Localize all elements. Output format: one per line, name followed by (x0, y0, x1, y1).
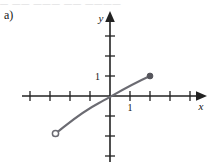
y-axis-label: y (98, 12, 104, 24)
function-curve (56, 76, 150, 133)
open-endpoint-marker (52, 130, 58, 136)
axes-group (22, 11, 207, 162)
y-axis-arrowhead (105, 11, 115, 22)
coordinate-plot: y x 1 1 (0, 0, 213, 165)
filled-endpoint-marker (147, 73, 153, 79)
x-axis-label: x (198, 100, 204, 112)
y-tick-label-one: 1 (95, 71, 100, 82)
function-curve-group (52, 73, 153, 136)
x-tick-label-one: 1 (128, 102, 133, 113)
figure-container: — —— ——— —— ———— a) (0, 0, 213, 165)
